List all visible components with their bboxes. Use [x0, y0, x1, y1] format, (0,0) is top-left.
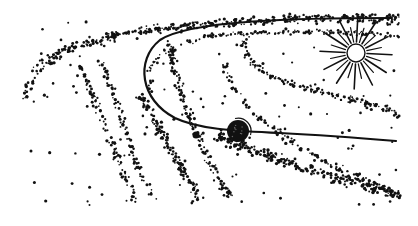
background: [0, 0, 418, 226]
illustration-canvas: [0, 0, 418, 226]
small-body: [193, 132, 200, 139]
